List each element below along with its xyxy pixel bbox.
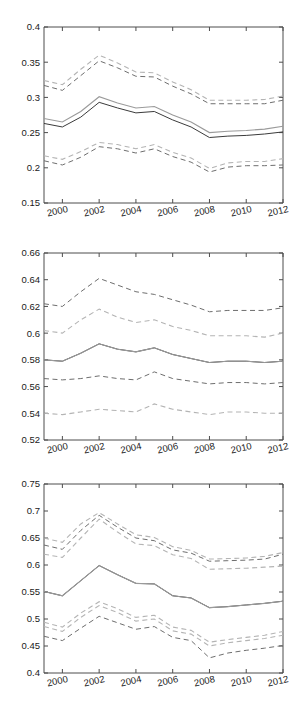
- y-tick-label: 0.65: [22, 532, 41, 543]
- x-tick-label: 2008: [193, 203, 216, 218]
- x-tick-label: 2000: [46, 673, 69, 688]
- chart-1-canvas: 0.150.20.250.30.350.42000200220042006200…: [0, 0, 305, 240]
- y-tick-label: 0.54: [22, 408, 41, 419]
- chart-2-canvas: 0.520.540.560.580.60.620.640.66200020022…: [0, 240, 305, 475]
- y-tick-label: 0.25: [22, 127, 41, 138]
- x-tick-label: 2002: [83, 440, 106, 455]
- x-tick-label: 2006: [156, 203, 179, 218]
- y-tick-label: 0.3: [27, 92, 40, 103]
- y-tick-label: 0.64: [22, 274, 41, 285]
- series-upper-ci-light: [44, 309, 283, 337]
- series-lower-ci-light: [44, 142, 283, 168]
- series-estimate-light: [44, 97, 283, 133]
- x-tick-label: 2010: [230, 440, 253, 455]
- y-tick-label: 0.35: [22, 57, 41, 68]
- x-tick-label: 2002: [83, 673, 106, 688]
- y-tick-label: 0.56: [22, 381, 41, 392]
- y-tick-label: 0.45: [22, 640, 41, 651]
- y-tick-label: 0.55: [22, 586, 41, 597]
- x-tick-label: 2004: [119, 440, 142, 455]
- series-upper-ci-dark: [44, 61, 283, 104]
- series-estimate-light: [44, 344, 283, 363]
- x-tick-label: 2012: [266, 203, 289, 218]
- y-tick-label: 0.2: [27, 162, 40, 173]
- y-tick-label: 0.66: [22, 247, 41, 258]
- y-tick-label: 0.6: [27, 559, 40, 570]
- series-upper-ci-outer: [44, 519, 283, 569]
- y-tick-label: 0.4: [27, 21, 40, 32]
- y-tick-label: 0.7: [27, 505, 40, 516]
- x-tick-label: 2000: [46, 203, 69, 218]
- y-tick-label: 0.58: [22, 354, 41, 365]
- x-tick-label: 2008: [193, 440, 216, 455]
- chart-panel-1: 0.150.20.250.30.350.42000200220042006200…: [0, 0, 305, 240]
- x-tick-label: 2006: [156, 673, 179, 688]
- chart-panel-2: 0.520.540.560.580.60.620.640.66200020022…: [0, 240, 305, 475]
- x-tick-label: 2012: [266, 673, 289, 688]
- chart-1-svg: 0.150.20.250.30.350.42000200220042006200…: [0, 0, 305, 240]
- chart-2-svg: 0.520.540.560.580.60.620.640.66200020022…: [0, 240, 305, 475]
- x-tick-label: 2008: [193, 673, 216, 688]
- series-lower-ci-dark: [44, 147, 283, 172]
- series-lower-ci-mid: [44, 606, 283, 647]
- chart-3-svg: 0.40.450.50.550.60.650.70.75200020022004…: [0, 475, 305, 703]
- y-tick-label: 0.62: [22, 301, 41, 312]
- x-tick-label: 2012: [266, 440, 289, 455]
- series-lower-ci-light: [44, 602, 283, 643]
- x-tick-label: 2006: [156, 440, 179, 455]
- y-tick-label: 0.4: [27, 667, 40, 678]
- x-tick-label: 2004: [119, 673, 142, 688]
- y-tick-label: 0.52: [22, 434, 41, 445]
- series-lower-ci-light: [44, 404, 283, 415]
- figure-stack: 0.150.20.250.30.350.42000200220042006200…: [0, 0, 305, 703]
- x-tick-label: 2010: [230, 203, 253, 218]
- series-estimate-dark: [44, 566, 283, 608]
- series-upper-ci-light: [44, 55, 283, 100]
- series-estimate-dark: [44, 102, 283, 137]
- chart-panel-3: 0.40.450.50.550.60.650.70.75200020022004…: [0, 475, 305, 703]
- x-tick-label: 2004: [119, 203, 142, 218]
- y-tick-label: 0.15: [22, 197, 41, 208]
- series-estimate-light: [44, 566, 283, 608]
- plot-box: [44, 484, 283, 673]
- y-tick-label: 0.5: [27, 613, 40, 624]
- plot-box: [44, 27, 283, 203]
- y-tick-label: 0.6: [27, 328, 40, 339]
- y-tick-label: 0.75: [22, 478, 41, 489]
- series-upper-ci-light: [44, 513, 283, 559]
- x-tick-label: 2002: [83, 203, 106, 218]
- series-upper-ci-dark: [44, 278, 283, 311]
- x-tick-label: 2000: [46, 440, 69, 455]
- x-tick-label: 2010: [230, 673, 253, 688]
- series-lower-ci-dark: [44, 372, 283, 384]
- chart-3-canvas: 0.40.450.50.550.60.650.70.75200020022004…: [0, 475, 305, 703]
